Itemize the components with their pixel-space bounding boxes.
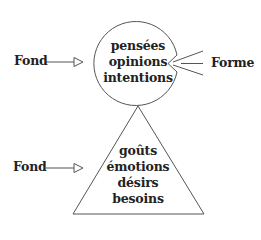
fond-top-label: Fond (14, 53, 48, 68)
triangle-item: émotions (98, 159, 178, 175)
triangle-item: besoins (98, 191, 178, 207)
circle-item: opinions (98, 54, 178, 70)
triangle-item: goûts (98, 143, 178, 159)
forme-label: Forme (211, 55, 254, 70)
fond-bottom-label: Fond (13, 159, 47, 174)
circle-item: intentions (98, 70, 178, 86)
triangle-items: goûts émotions désirs besoins (98, 143, 178, 207)
fond-bottom-arrow-icon (46, 164, 83, 173)
triangle-item: désirs (98, 175, 178, 191)
fond-top-arrow-icon (46, 58, 83, 67)
circle-items: pensées opinions intentions (98, 38, 178, 86)
circle-item: pensées (98, 38, 178, 54)
